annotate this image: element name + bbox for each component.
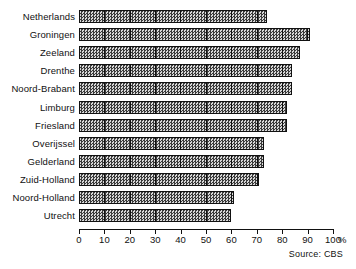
category-label: Noord-Brabant xyxy=(11,81,75,96)
bar-gridline xyxy=(206,83,207,95)
bar-gridline xyxy=(231,65,232,77)
category-label: Drenthe xyxy=(41,63,76,78)
bar-gridline xyxy=(206,138,207,150)
category-label: Limburg xyxy=(40,100,75,115)
bar-track xyxy=(79,155,264,168)
bar-track xyxy=(79,46,300,59)
bar-row: Utrecht xyxy=(0,208,356,223)
bar-gridline xyxy=(155,210,156,222)
bar-gridline xyxy=(206,29,207,41)
bar xyxy=(79,209,231,222)
category-label: Friesland xyxy=(35,118,75,133)
bar-row: Drenthe xyxy=(0,63,356,78)
bar-gridline xyxy=(180,29,181,41)
bar-gridline xyxy=(155,11,156,23)
bar-gridline xyxy=(180,210,181,222)
bar-chart: NetherlandsGroningenZeelandDrentheNoord-… xyxy=(0,0,356,269)
bar-gridline xyxy=(130,102,131,114)
bar-gridline xyxy=(130,138,131,150)
bar-gridline xyxy=(257,11,258,23)
bar-gridline xyxy=(257,102,258,114)
category-label: Noord-Holland xyxy=(12,190,75,205)
bar-track xyxy=(79,173,259,186)
bar-gridline xyxy=(104,83,105,95)
bar-gridline xyxy=(130,192,131,204)
bar-track xyxy=(79,82,292,95)
bar-row: Zuid-Holland xyxy=(0,172,356,187)
bar-gridline xyxy=(257,47,258,59)
bar-gridline xyxy=(130,83,131,95)
category-label: Overijssel xyxy=(32,136,75,151)
bar-gridline xyxy=(257,156,258,168)
bar-gridline xyxy=(104,210,105,222)
category-label: Gelderland xyxy=(28,154,75,169)
bar-gridline xyxy=(282,83,283,95)
bar-row: Friesland xyxy=(0,118,356,133)
bar-gridline xyxy=(104,11,105,23)
bar-gridline xyxy=(155,102,156,114)
bar xyxy=(79,119,287,132)
bar-gridline xyxy=(104,47,105,59)
bar-row: Noord-Holland xyxy=(0,190,356,205)
bar-gridline xyxy=(231,174,232,186)
bar-gridline xyxy=(282,65,283,77)
bar-gridline xyxy=(206,174,207,186)
bar-gridline xyxy=(307,29,308,41)
bar-gridline xyxy=(231,192,232,204)
x-axis-unit-label: % xyxy=(338,234,346,246)
bar-gridline xyxy=(257,174,258,186)
bar-gridline xyxy=(104,192,105,204)
source-note: Source: CBS xyxy=(289,249,343,260)
bar-row: Groningen xyxy=(0,27,356,42)
bar-gridline xyxy=(104,120,105,132)
bar-gridline xyxy=(180,138,181,150)
bar-gridline xyxy=(155,65,156,77)
bar-gridline xyxy=(155,47,156,59)
bar xyxy=(79,10,267,23)
bar-track xyxy=(79,28,310,41)
bar-gridline xyxy=(231,83,232,95)
bar-gridline xyxy=(130,120,131,132)
bar-gridline xyxy=(206,65,207,77)
bar-track xyxy=(79,137,264,150)
bar-gridline xyxy=(231,47,232,59)
bar-gridline xyxy=(104,102,105,114)
bar-gridline xyxy=(206,192,207,204)
bar-gridline xyxy=(257,138,258,150)
bar-gridline xyxy=(231,29,232,41)
bar-gridline xyxy=(155,192,156,204)
bar-gridline xyxy=(130,210,131,222)
bar xyxy=(79,101,287,114)
bar-gridline xyxy=(206,47,207,59)
bar-track xyxy=(79,119,287,132)
bar-gridline xyxy=(206,102,207,114)
bar-gridline xyxy=(130,174,131,186)
bar-gridline xyxy=(180,174,181,186)
bar-gridline xyxy=(180,83,181,95)
bar-gridline xyxy=(231,138,232,150)
bar xyxy=(79,191,234,204)
bar-gridline xyxy=(104,138,105,150)
bar-gridline xyxy=(155,174,156,186)
bar-gridline xyxy=(206,156,207,168)
bar-track xyxy=(79,209,231,222)
bar-row: Overijssel xyxy=(0,136,356,151)
bar-gridline xyxy=(180,102,181,114)
bar-gridline xyxy=(180,47,181,59)
bar-gridline xyxy=(282,29,283,41)
bar-row: Netherlands xyxy=(0,9,356,24)
bar-gridline xyxy=(155,29,156,41)
category-label: Utrecht xyxy=(44,208,75,223)
bar-gridline xyxy=(155,120,156,132)
bar-gridline xyxy=(155,156,156,168)
bar-gridline xyxy=(231,11,232,23)
bar-track xyxy=(79,101,287,114)
bar xyxy=(79,64,292,77)
category-label: Netherlands xyxy=(23,9,75,24)
bar-gridline xyxy=(206,210,207,222)
bar-gridline xyxy=(155,138,156,150)
bar xyxy=(79,82,292,95)
bar-gridline xyxy=(180,120,181,132)
bar-gridline xyxy=(257,29,258,41)
bar-gridline xyxy=(104,156,105,168)
